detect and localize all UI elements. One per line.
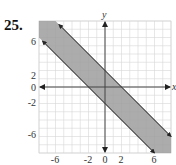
x-tick-6: 6 [152,154,157,165]
x-axis-label: x [171,81,176,92]
y-tick-neg6: -6 [28,129,36,140]
y-tick-2: 2 [31,70,36,81]
graph: y x 6 2 0 -2 -6 -6 -2 0 2 6 [0,0,176,165]
x-tick-0: 0 [103,154,108,165]
y-tick-0: 0 [31,82,36,93]
x-tick-neg2: -2 [84,154,92,165]
x-tick-2: 2 [119,154,124,165]
y-tick-neg2: -2 [28,97,36,108]
y-tick-6: 6 [31,36,36,47]
y-axis-label: y [101,9,107,20]
x-tick-neg6: -6 [51,154,59,165]
